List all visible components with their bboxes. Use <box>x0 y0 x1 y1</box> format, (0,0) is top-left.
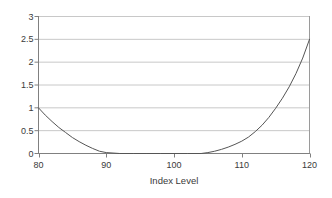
x-tick-label: 100 <box>162 160 186 170</box>
x-axis-title: Index Level <box>38 175 310 186</box>
y-tick-label: 2.5 <box>8 34 34 44</box>
x-tick-label: 90 <box>94 160 118 170</box>
y-tick-label: 2 <box>8 57 34 67</box>
x-tick-label: 80 <box>27 160 51 170</box>
y-tick-label: 0.5 <box>8 126 34 136</box>
y-tick-marks <box>35 17 39 154</box>
x-tick-label: 110 <box>230 160 254 170</box>
gridlines <box>39 17 310 154</box>
data-curve <box>39 39 310 153</box>
y-tick-label: 1 <box>8 103 34 113</box>
x-tick-marks <box>40 154 311 158</box>
y-tick-label: 1.5 <box>8 80 34 90</box>
chart-container: 00.511.522.53 8090100110120 Index Level <box>0 0 332 198</box>
x-tick-label: 120 <box>298 160 322 170</box>
y-tick-label: 0 <box>8 149 34 159</box>
y-tick-label: 3 <box>8 12 34 22</box>
